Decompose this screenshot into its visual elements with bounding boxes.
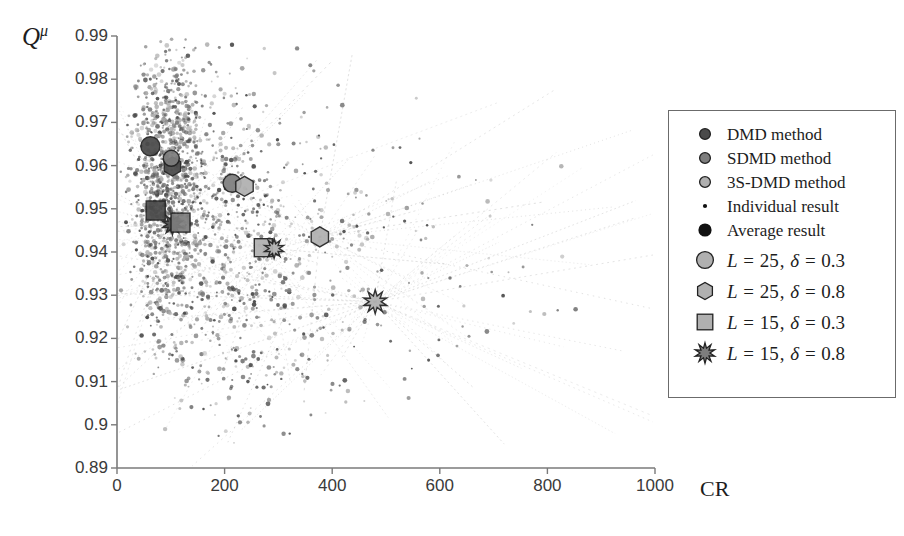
individual-result-point	[162, 108, 165, 111]
individual-result-point	[173, 313, 175, 315]
individual-result-point	[223, 165, 226, 168]
legend-3s-dmd-method[interactable]: 3S-DMD method	[683, 169, 889, 195]
individual-result-point	[130, 278, 133, 281]
individual-result-point	[320, 337, 325, 342]
dot-large-icon	[698, 223, 711, 236]
individual-result-point	[407, 396, 411, 400]
individual-result-point	[437, 338, 440, 341]
individual-result-point	[229, 261, 232, 264]
individual-result-point	[188, 137, 192, 141]
individual-result-point	[461, 325, 463, 327]
individual-result-point	[144, 281, 147, 284]
individual-result-point	[269, 298, 273, 302]
individual-result-point	[160, 268, 162, 270]
individual-result-point	[245, 319, 247, 321]
legend-l15-d03[interactable]: L = 15, δ = 0.3	[683, 309, 889, 335]
individual-result-point	[198, 139, 202, 143]
legend-marker-wrapper	[683, 193, 727, 219]
individual-result-point	[235, 365, 238, 368]
individual-result-point	[145, 96, 147, 98]
individual-result-point	[168, 302, 170, 304]
individual-result-point	[186, 54, 191, 59]
individual-result-point	[265, 258, 269, 262]
individual-result-point	[183, 242, 188, 247]
individual-result-point	[262, 223, 265, 226]
individual-result-point	[270, 318, 273, 321]
individual-result-point	[211, 144, 214, 147]
individual-result-point	[227, 398, 230, 401]
individual-result-point	[177, 239, 179, 241]
individual-result-point	[143, 215, 145, 217]
individual-result-point	[139, 268, 144, 273]
individual-result-point	[164, 295, 168, 299]
individual-result-point	[426, 224, 428, 226]
individual-result-point	[210, 101, 214, 105]
individual-result-point	[179, 127, 183, 131]
individual-result-point	[279, 204, 282, 207]
individual-result-point	[313, 285, 316, 288]
individual-result-point	[186, 72, 189, 75]
individual-result-point	[204, 311, 207, 314]
legend-l25-d08[interactable]: L = 25, δ = 0.8	[683, 278, 889, 304]
individual-result-point	[228, 121, 233, 126]
individual-result-point	[244, 306, 248, 310]
individual-result-point	[239, 117, 243, 121]
individual-result-point	[208, 212, 210, 214]
individual-result-point	[319, 148, 321, 150]
individual-result-point	[421, 297, 426, 302]
individual-result-point	[246, 208, 249, 211]
individual-result-point	[246, 272, 248, 274]
individual-result-point	[326, 188, 330, 192]
individual-result-point	[261, 385, 265, 389]
individual-result-point	[215, 280, 219, 284]
individual-result-point	[193, 195, 195, 197]
individual-result-point	[542, 312, 546, 316]
individual-result-point	[294, 263, 299, 268]
legend-l15-d08[interactable]: L = 15, δ = 0.8	[683, 340, 889, 366]
individual-result-point	[130, 130, 135, 135]
individual-result-point	[225, 282, 229, 286]
individual-result-point	[202, 199, 206, 203]
individual-result-point	[185, 80, 188, 83]
individual-result-point	[183, 111, 188, 116]
individual-result-point	[237, 414, 240, 417]
individual-result-point	[205, 201, 208, 204]
individual-result-point	[176, 252, 179, 255]
individual-result-point	[234, 349, 237, 352]
individual-result-point	[210, 259, 214, 263]
individual-result-point	[201, 68, 205, 72]
individual-result-point	[204, 177, 206, 179]
legend-individual-result[interactable]: Individual result	[683, 193, 889, 219]
connector-line	[248, 302, 375, 364]
individual-result-point	[352, 214, 355, 217]
individual-result-point	[149, 67, 153, 71]
individual-result-point	[242, 198, 245, 201]
individual-result-point	[343, 237, 345, 239]
legend-sdmd-method[interactable]: SDMD method	[683, 145, 889, 171]
individual-result-point	[169, 205, 171, 207]
individual-result-point	[347, 327, 351, 331]
individual-result-point	[456, 345, 459, 348]
individual-result-point	[234, 359, 237, 362]
individual-result-point	[231, 165, 233, 167]
individual-result-point	[144, 91, 149, 96]
individual-result-point	[352, 225, 356, 229]
individual-result-point	[184, 207, 186, 209]
individual-result-point	[166, 201, 170, 205]
individual-result-point	[215, 295, 217, 297]
individual-result-point	[140, 253, 145, 258]
individual-result-point	[148, 107, 153, 112]
individual-result-point	[169, 188, 172, 191]
individual-result-point	[271, 296, 273, 298]
individual-result-point	[296, 295, 300, 299]
legend-average-result[interactable]: Average result	[683, 217, 889, 243]
connector-line	[118, 224, 172, 271]
legend-dmd-method[interactable]: DMD method	[683, 121, 889, 147]
individual-result-point	[199, 137, 201, 139]
individual-result-point	[367, 212, 371, 216]
individual-result-point	[205, 378, 209, 382]
individual-result-point	[178, 137, 180, 139]
x-tick-label: 600	[400, 476, 480, 496]
individual-result-point	[163, 276, 167, 280]
legend-l25-d03[interactable]: L = 25, δ = 0.3	[683, 247, 889, 273]
